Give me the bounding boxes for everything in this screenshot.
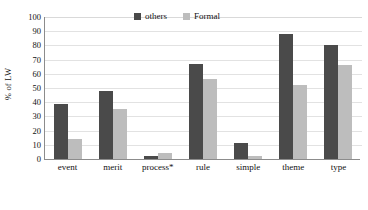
y-axis-tick-label: 40 bbox=[33, 98, 42, 107]
figure-caption bbox=[2, 201, 362, 210]
bar-chart-figure: % of LW others Formal 100908070605040302… bbox=[0, 0, 368, 210]
chart-legend: others Formal bbox=[134, 12, 220, 21]
x-axis-tick-label: process* bbox=[135, 163, 180, 173]
y-axis-tick-label: 50 bbox=[33, 84, 42, 93]
y-axis-title-label: % of LW bbox=[3, 68, 13, 100]
x-axis-tick-labels: eventmeritprocess*rulesimplethemetype bbox=[45, 163, 361, 173]
legend-label-others: others bbox=[145, 12, 167, 21]
bar-others-event[interactable] bbox=[54, 104, 68, 159]
y-axis-title: % of LW bbox=[0, 0, 16, 168]
plot-area: 1009080706050403020100 bbox=[44, 17, 360, 160]
legend-label-formal: Formal bbox=[194, 12, 220, 21]
y-axis-tick-label: 10 bbox=[33, 141, 42, 150]
bar-group-rule bbox=[181, 17, 226, 159]
y-axis-tick-label: 70 bbox=[33, 55, 42, 64]
bar-group-simple bbox=[225, 17, 270, 159]
x-axis-tick-label: theme bbox=[271, 163, 316, 173]
y-axis-tick-label: 20 bbox=[33, 126, 42, 135]
bar-group-process- bbox=[136, 17, 181, 159]
x-axis-tick-label: merit bbox=[90, 163, 135, 173]
bar-formal-type[interactable] bbox=[338, 65, 352, 159]
bar-others-rule[interactable] bbox=[189, 64, 203, 159]
bar-formal-event[interactable] bbox=[68, 139, 82, 159]
bar-others-merit[interactable] bbox=[99, 91, 113, 159]
bar-group-type bbox=[315, 17, 360, 159]
y-axis-tick-label: 60 bbox=[33, 70, 42, 79]
x-axis-tick-label: event bbox=[45, 163, 90, 173]
legend-item-formal[interactable]: Formal bbox=[183, 12, 220, 21]
bar-others-process-[interactable] bbox=[144, 156, 158, 159]
bar-others-theme[interactable] bbox=[279, 34, 293, 159]
bar-group-theme bbox=[270, 17, 315, 159]
legend-item-others[interactable]: others bbox=[134, 12, 167, 21]
bars-layer bbox=[46, 17, 360, 159]
y-axis-tick-label: 0 bbox=[37, 155, 41, 164]
y-axis-tick-label: 100 bbox=[28, 13, 41, 22]
y-axis-tick-label: 80 bbox=[33, 41, 42, 50]
bar-group-event bbox=[46, 17, 91, 159]
x-axis-tick-label: type bbox=[316, 163, 361, 173]
bar-formal-theme[interactable] bbox=[293, 85, 307, 159]
legend-swatch-others-icon bbox=[134, 13, 141, 20]
y-axis-tick-label: 30 bbox=[33, 112, 42, 121]
bar-others-simple[interactable] bbox=[234, 143, 248, 159]
legend-swatch-formal-icon bbox=[183, 13, 190, 20]
bar-formal-process-[interactable] bbox=[158, 153, 172, 159]
bar-group-merit bbox=[91, 17, 136, 159]
x-axis-tick-label: simple bbox=[226, 163, 271, 173]
bar-formal-rule[interactable] bbox=[203, 79, 217, 159]
x-axis-tick-label: rule bbox=[180, 163, 225, 173]
y-axis-tick-label: 90 bbox=[33, 27, 42, 36]
bar-others-type[interactable] bbox=[324, 45, 338, 159]
bar-formal-simple[interactable] bbox=[248, 156, 262, 159]
bar-formal-merit[interactable] bbox=[113, 109, 127, 159]
